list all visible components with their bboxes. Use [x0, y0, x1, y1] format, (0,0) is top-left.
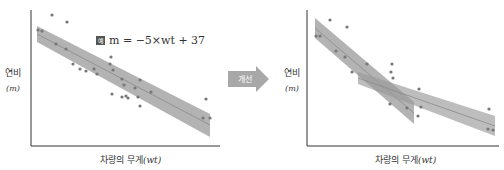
y-axis-label: 연비 (m): [1, 66, 25, 93]
x-axis-title: 차량의 무게: [100, 155, 143, 165]
regression-line-segment-2: [358, 78, 495, 126]
y-axis-unit: (m): [280, 84, 304, 93]
x-axis-unit: (wt): [418, 155, 436, 165]
confidence-band-segment-2: [358, 72, 495, 136]
x-axis-unit: (wt): [143, 155, 161, 165]
example-badge-icon: 예: [96, 36, 105, 45]
regression-equation: 예m = −5×wt + 37: [96, 34, 205, 47]
y-axis-title: 연비: [5, 68, 21, 78]
y-axis-unit: (m): [1, 84, 25, 93]
regression-line-segment-1: [315, 28, 414, 113]
arrow-label: 개선: [232, 73, 258, 84]
right-chart: 연비 (m) 차량의 무게(wt): [275, 0, 504, 170]
right-plot: [275, 0, 504, 170]
left-plot: [0, 0, 225, 170]
y-axis-label: 연비 (m): [280, 66, 304, 93]
x-axis-label: 차량의 무게(wt): [100, 153, 161, 166]
equation-text: m = −5×wt + 37: [109, 34, 205, 47]
x-axis-label: 차량의 무게(wt): [375, 153, 436, 166]
y-axis-title: 연비: [284, 68, 300, 78]
left-chart: 연비 (m) 차량의 무게(wt) 예m = −5×wt + 37: [0, 0, 225, 170]
x-axis-title: 차량의 무게: [375, 155, 418, 165]
